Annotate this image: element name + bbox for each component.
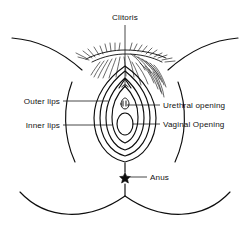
label-inner-lips: Inner lips (26, 121, 60, 130)
buttock-curve-left (20, 192, 125, 214)
label-urethral-opening: Urethral opening (163, 101, 225, 110)
anatomy-diagram: Clitoris Outer lips Inner lips Urethral … (0, 0, 250, 234)
diagram-canvas: Clitoris Outer lips Inner lips Urethral … (0, 0, 250, 234)
pubic-hair-group (76, 43, 175, 97)
groin-curve-right (168, 38, 238, 70)
buttock-curve-right (125, 192, 230, 214)
label-anus: Anus (150, 173, 169, 182)
label-vaginal-opening: Vaginal Opening (163, 120, 225, 129)
perineum-anus-group (120, 163, 131, 196)
urethral-opening-shape (121, 98, 129, 109)
inner-thigh-left (66, 82, 75, 162)
label-outer-lips: Outer lips (24, 97, 60, 106)
vaginal-opening-shape (117, 113, 133, 135)
label-clitoris: Clitoris (112, 13, 138, 22)
anus-star-marker-icon (120, 173, 131, 184)
groin-curve-left (12, 38, 82, 70)
